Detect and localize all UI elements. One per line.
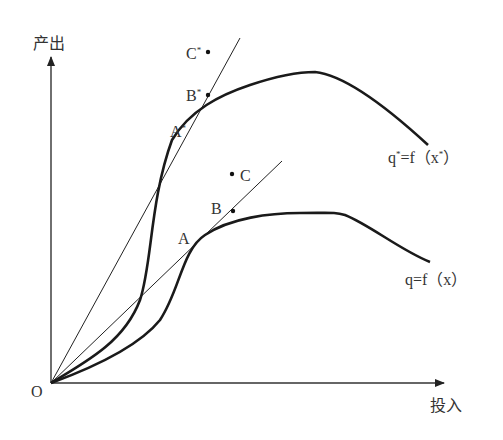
label-curve-lower: q=f（x） [405,272,467,288]
y-axis-label: 产出 [33,36,65,52]
origin-label: O [31,384,43,400]
label-b-star: B* [186,88,201,104]
label-a: A [178,231,190,247]
curve-lower [51,213,430,383]
label-c: C [240,168,251,184]
point-c [230,172,234,176]
label-c-star: C* [186,46,201,62]
point-b [231,209,235,213]
label-b: B [211,201,222,217]
curve-upper [51,72,428,383]
production-diagram [0,0,503,440]
ray-lower-tangent [51,161,282,383]
point-b-star [206,93,210,97]
x-axis-label: 投入 [430,398,462,414]
label-curve-upper: q*=f（x*） [388,150,459,166]
point-c-star [206,50,210,54]
label-a-star: A* [170,124,186,140]
